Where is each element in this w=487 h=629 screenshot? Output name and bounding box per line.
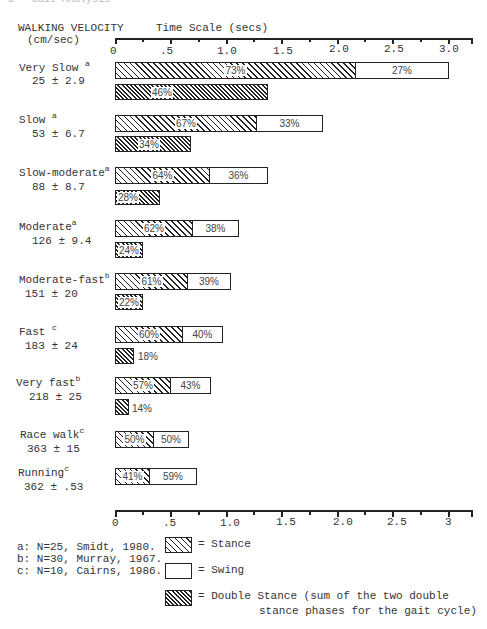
row-velocity: 53 ± 6.7 [32,128,85,140]
top-tick-label: 1.5 [273,45,293,57]
top-tick-label: .5 [160,45,173,57]
top-tick-label: 2.0 [329,43,349,55]
stance-segment: 57% [116,378,170,393]
top-tick-label: 1.0 [217,45,237,57]
row-velocity: 25 ± 2.9 [32,75,85,87]
top-tick-label: 0 [110,45,117,57]
row-velocity: 363 ± 15 [27,443,80,455]
swing-segment: 36% [209,168,267,183]
bottom-tick-label: 1.5 [276,516,296,528]
row-label: Moderate-fastb [19,274,110,286]
stance-segment: 61% [116,274,187,289]
swing-segment: 33% [256,116,322,131]
y-axis-unit: (cm/sec) [27,34,80,46]
legend-double-stance-note: stance phases for the gait cycle) [259,605,477,617]
legend-swing-label: = Swing [198,564,244,576]
stance-segment: 64% [116,168,209,183]
cycle-bar: 62% 38% [115,220,239,237]
swing-swatch [165,563,192,579]
footnote-c: c: N=10, Cairns, 1986. [17,565,162,577]
double-stance-bar: 22% [115,294,143,310]
swing-segment: 38% [192,221,238,236]
cycle-bar: 57% 43% [115,377,211,394]
stance-segment: 41% [116,469,149,484]
swing-segment: 40% [182,327,222,342]
legend-stance-label: = Stance [198,538,251,550]
double-stance-swatch [165,590,192,606]
cycle-bar: 64% 36% [115,167,268,184]
double-stance-bar: 46% [115,84,268,100]
row-label: Slow a [19,114,57,126]
cycle-bar: 60% 40% [115,326,223,343]
row-label: Very fastb [16,377,80,389]
double-stance-label: 14% [131,403,153,414]
stance-segment: 73% [116,63,355,78]
swing-segment: 43% [170,378,210,393]
row-label: Race walkc [20,429,84,441]
y-axis-title: WALKING VELOCITY [18,22,124,34]
stance-segment: 60% [116,327,182,342]
bottom-tick-label: 3 [445,516,452,528]
swing-segment: 39% [187,274,230,289]
double-stance-bar [115,348,134,364]
swing-segment: 59% [149,469,196,484]
cycle-bar: 73% 27% [115,62,449,79]
bottom-tick-label: 2.0 [333,516,353,528]
double-stance-bar: 28% [115,190,160,205]
stance-segment: 62% [116,221,192,236]
row-label: Moderatea [19,221,77,233]
double-stance-bar: 24% [115,242,143,258]
footnote-a: a: N=25, Smidt, 1980. [17,541,156,553]
legend-double-stance-label: = Double Stance (sum of the two double [198,590,449,602]
cycle-bar: 41% 59% [115,468,197,485]
row-label: Runningc [18,467,69,479]
double-stance-bar: 34% [115,136,191,152]
row-velocity: 218 ± 25 [29,391,82,403]
cycle-bar: 67% 33% [115,115,323,132]
row-label: Fast c [19,326,57,338]
bottom-tick-label: 1.0 [220,517,240,529]
row-velocity: 183 ± 24 [25,340,78,352]
row-velocity: 362 ± .53 [24,481,83,493]
bottom-tick-label: 2.5 [387,516,407,528]
row-velocity: 151 ± 20 [25,288,78,300]
footnote-b: b: N=30, Murray, 1967. [17,553,162,565]
row-velocity: 88 ± 8.7 [32,181,85,193]
row-label: Very Slow a [19,62,90,74]
top-tick-label: 2.5 [384,43,404,55]
row-velocity: 126 ± 9.4 [32,235,91,247]
page-header: 6 Gait Analysis [8,0,110,5]
stance-swatch [165,537,192,553]
bottom-tick-label: 0 [112,517,119,529]
stance-segment: 67% [116,116,256,131]
stance-segment: 50% [116,432,153,447]
double-stance-bar [115,399,129,415]
row-label: Slow-moderatea [19,167,110,179]
top-tick-label: 3.0 [439,43,459,55]
double-stance-label: 18% [137,351,159,362]
bottom-tick-label: .5 [163,517,176,529]
swing-segment: 50% [153,432,188,447]
cycle-bar: 61% 39% [115,273,231,290]
cycle-bar: 50% 50% [115,431,189,448]
x-axis-title: Time Scale (secs) [156,22,268,34]
swing-segment: 27% [355,63,448,78]
